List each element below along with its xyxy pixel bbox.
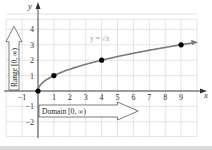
svg-text:4: 4 [30, 25, 34, 34]
function-label: y = √x [90, 34, 110, 43]
svg-text:−1: −1 [25, 102, 34, 111]
svg-text:6: 6 [131, 93, 135, 102]
x-axis-label: x [203, 90, 208, 100]
svg-text:3: 3 [84, 93, 88, 102]
data-point [179, 42, 184, 47]
footer-band [0, 146, 212, 150]
svg-text:Domain [0, ∞): Domain [0, ∞) [42, 107, 86, 116]
svg-text:1: 1 [30, 72, 34, 81]
svg-text:−1: −1 [18, 93, 27, 102]
y-axis-label: y [27, 1, 32, 11]
svg-text:Range [0, ∞): Range [0, ∞) [10, 48, 19, 87]
svg-text:2: 2 [30, 56, 34, 65]
data-point [51, 73, 56, 78]
svg-text:2: 2 [68, 93, 72, 102]
svg-text:−2: −2 [25, 118, 34, 127]
axes [4, 2, 207, 138]
svg-text:4: 4 [100, 93, 104, 102]
svg-text:1: 1 [52, 93, 56, 102]
data-point [99, 58, 104, 63]
svg-text:8: 8 [163, 93, 167, 102]
svg-text:7: 7 [147, 93, 151, 102]
data-point [35, 88, 40, 93]
svg-text:9: 9 [179, 93, 183, 102]
chart: −1123456789−2−11234 Domain [0, ∞)Range [… [0, 0, 212, 150]
curve [38, 40, 198, 91]
svg-text:5: 5 [116, 93, 120, 102]
data-points [35, 42, 183, 93]
svg-text:3: 3 [30, 41, 34, 50]
grid [6, 14, 197, 136]
